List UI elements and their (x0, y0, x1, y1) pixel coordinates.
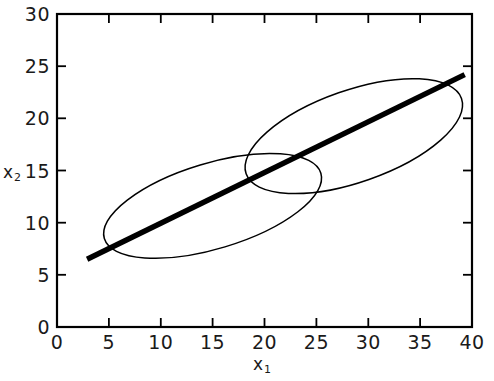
xtick-label-0: 0 (51, 331, 64, 353)
xtick-label-25: 25 (304, 331, 329, 353)
xtick-label-15: 15 (200, 331, 225, 353)
y-axis-ticks (57, 14, 66, 327)
ytick-label-0: 0 (16, 316, 50, 338)
xtick-label-30: 30 (356, 331, 381, 353)
xtick-label-10: 10 (148, 331, 173, 353)
xtick-label-35: 35 (408, 331, 433, 353)
ytick-label-5: 5 (16, 264, 50, 286)
xtick-label-5: 5 (103, 331, 116, 353)
ytick-label-25: 25 (16, 55, 50, 77)
y-axis-title-base: x (3, 162, 13, 182)
xtick-label-40: 40 (459, 331, 484, 353)
ytick-label-10: 10 (16, 212, 50, 234)
plot-canvas (0, 0, 494, 381)
y-axis-title: x2 (3, 162, 20, 182)
x-axis-ticks-top (109, 14, 420, 23)
x-axis-title-base: x (253, 354, 263, 374)
cluster-ellipse-upper-right (231, 55, 477, 217)
y-axis-ticks-right (463, 66, 472, 275)
y-axis-title-subscript: 2 (14, 171, 21, 184)
x-axis-title-subscript: 1 (264, 363, 271, 376)
ytick-label-30: 30 (16, 3, 50, 25)
ytick-label-20: 20 (16, 107, 50, 129)
ytick-label-15: 15 (16, 160, 50, 182)
regression-line (87, 75, 465, 260)
x-axis-title: x1 (253, 354, 270, 374)
chart-figure: 0 5 10 15 20 25 30 35 40 0 5 10 15 20 25… (0, 0, 494, 381)
xtick-label-20: 20 (252, 331, 277, 353)
x-axis-ticks (57, 318, 472, 327)
